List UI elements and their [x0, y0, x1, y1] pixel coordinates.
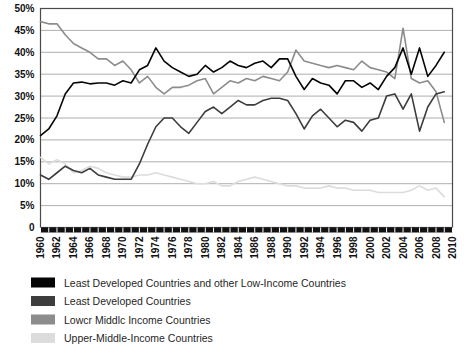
x-axis-tick-label: 1960 [35, 236, 46, 259]
x-axis-tick-label: 2002 [381, 236, 392, 259]
legend-label: Lowcr Middlc Income Countries [64, 314, 210, 326]
y-axis-tick-label: 30% [14, 91, 34, 102]
legend-swatch [31, 333, 55, 343]
y-axis-tick-label: 15% [14, 156, 34, 167]
legend-label: Least Developed Countries and other Low-… [64, 277, 346, 289]
x-axis-tick-label: 1986 [249, 236, 260, 259]
y-axis-tick-label: 50% [14, 3, 34, 14]
x-axis-tick-label: 1984 [233, 236, 244, 259]
x-axis-tick-label: 1974 [150, 236, 161, 259]
y-axis-tick-label: 45% [14, 25, 34, 36]
x-axis-tick-label: 1996 [332, 236, 343, 259]
x-axis-tick-label: 1980 [200, 236, 211, 259]
y-axis-tick-label: 10% [14, 178, 34, 189]
chart-container: 05%10%15%20%25%30%35%40%45%50%1960196219… [0, 0, 467, 358]
x-axis-tick-label: 1988 [266, 236, 277, 259]
x-axis-tick-label: 1994 [315, 236, 326, 259]
x-axis-tick-label: 1964 [68, 236, 79, 259]
y-axis-tick-label: 5% [20, 200, 35, 211]
legend-swatch [31, 296, 55, 306]
x-axis-tick-label: 1976 [167, 236, 178, 259]
x-axis-tick-label: 2006 [414, 236, 425, 259]
y-axis-tick-label: 35% [14, 69, 34, 80]
x-axis-tick-label: 1966 [84, 236, 95, 259]
legend-swatch [31, 315, 55, 325]
x-axis-tick-label: 1990 [282, 236, 293, 259]
x-axis-tick-label: 1978 [183, 236, 194, 259]
y-axis-tick-label: 20% [14, 134, 34, 145]
x-axis-tick-label: 1998 [348, 236, 359, 259]
series-line-3 [41, 22, 445, 123]
series-line-1 [41, 48, 445, 136]
x-axis-tick-label: 1962 [51, 236, 62, 259]
x-axis-tick-label: 2010 [447, 236, 458, 259]
x-axis-tick-label: 1992 [299, 236, 310, 259]
legend-label: Upper-Middle-Income Countries [64, 332, 213, 344]
y-axis-tick-label: 40% [14, 47, 34, 58]
legend-label: Least Developed Countries [64, 295, 191, 307]
x-axis-tick-label: 1982 [216, 236, 227, 259]
legend-swatch [31, 278, 55, 288]
y-axis-tick-label: 25% [14, 113, 34, 124]
line-chart: 05%10%15%20%25%30%35%40%45%50%1960196219… [0, 0, 467, 358]
y-axis-tick-label: 0 [29, 222, 35, 233]
series-line-4 [41, 157, 445, 196]
series-line-2 [41, 92, 445, 180]
x-axis-tick-label: 1972 [134, 236, 145, 259]
x-axis-tick-label: 2004 [398, 236, 409, 259]
x-axis-tick-label: 1968 [101, 236, 112, 259]
x-axis-tick-label: 1970 [117, 236, 128, 259]
x-axis-tick-label: 2008 [431, 236, 442, 259]
x-axis-tick-label: 2000 [365, 236, 376, 259]
